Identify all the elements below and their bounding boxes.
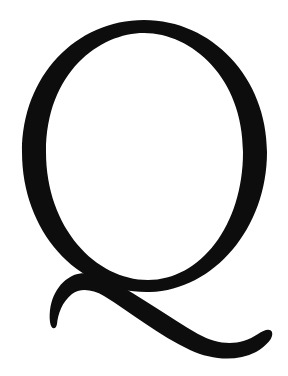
letter-q-glyph <box>0 0 288 376</box>
q-bowl <box>22 20 267 292</box>
letter-canvas: Q <box>0 0 288 376</box>
